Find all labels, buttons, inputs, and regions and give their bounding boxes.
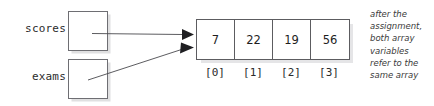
reference-arrowhead-scores xyxy=(182,29,194,40)
array-index-row: [0] [1] [2] [3] xyxy=(196,66,348,82)
array-cell: 22 xyxy=(235,20,273,59)
array-cell: 56 xyxy=(311,20,349,59)
reference-box-scores xyxy=(68,11,108,51)
annotation-line: assignment, xyxy=(370,20,434,32)
array-index-label: [1] xyxy=(234,66,272,82)
annotation-text: after the assignment, both array variabl… xyxy=(370,8,434,81)
array-index-label: [3] xyxy=(310,66,348,82)
array-index-label: [0] xyxy=(196,66,234,82)
array-cell: 7 xyxy=(197,20,235,59)
variable-label-exams: exams xyxy=(2,70,66,83)
annotation-line: refer to the xyxy=(370,57,434,69)
array-cell: 19 xyxy=(273,20,311,59)
array-container: 7 22 19 56 xyxy=(196,19,350,60)
variable-label-scores: scores xyxy=(2,22,66,35)
annotation-line: after the xyxy=(370,8,434,20)
reference-box-exams xyxy=(68,59,108,99)
annotation-line: same array xyxy=(370,69,434,81)
array-index-label: [2] xyxy=(272,66,310,82)
annotation-line: both array xyxy=(370,32,434,44)
reference-arrowhead-exams xyxy=(180,43,194,54)
annotation-line: variables xyxy=(370,45,434,57)
array-reference-diagram: scores exams 7 22 19 56 [0] [1] [2] [3] … xyxy=(0,0,434,106)
